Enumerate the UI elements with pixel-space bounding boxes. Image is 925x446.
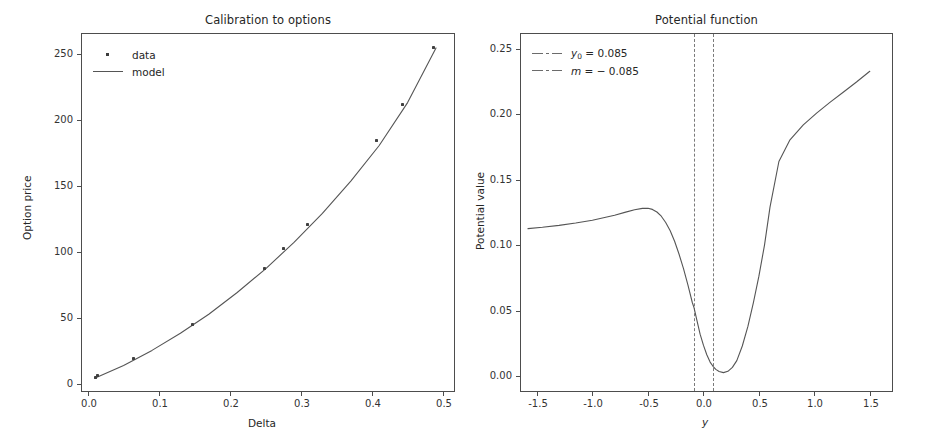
- calibration-legend: data model: [87, 42, 172, 84]
- legend-entry-model: model: [93, 63, 165, 80]
- legend-entry-m: m = − 0.085: [532, 62, 639, 79]
- legend-label-m: m = − 0.085: [571, 65, 639, 77]
- calibration-plot-area: [0, 0, 462, 446]
- legend-label-data: data: [132, 49, 156, 61]
- calibration-model-line: [95, 48, 436, 378]
- calibration-data-point: [306, 223, 309, 226]
- potential-curve: [528, 71, 870, 372]
- panel-calibration: Calibration to options 0 50 100 150 200 …: [0, 0, 462, 446]
- dashdot-line-icon: [532, 65, 562, 77]
- calibration-data-point: [401, 103, 404, 106]
- figure-canvas: Calibration to options 0 50 100 150 200 …: [0, 0, 925, 446]
- dashdot-line-icon: [532, 48, 562, 60]
- legend-entry-y0: y0 = 0.085: [532, 45, 639, 62]
- legend-entry-data: data: [93, 46, 165, 63]
- calibration-data-point: [191, 323, 194, 326]
- point-marker-icon: [93, 49, 123, 61]
- potential-legend: y0 = 0.085 m = − 0.085: [526, 41, 646, 83]
- calibration-data-point: [282, 247, 285, 250]
- panel-potential: Potential function 0.00 0.05 0.10 0.15 0…: [462, 0, 925, 446]
- calibration-data-point: [132, 357, 135, 360]
- legend-label-model: model: [132, 66, 165, 78]
- legend-label-y0: y0 = 0.085: [571, 47, 628, 61]
- calibration-data-point: [432, 46, 435, 49]
- calibration-data-point: [263, 267, 266, 270]
- solid-line-icon: [93, 66, 123, 78]
